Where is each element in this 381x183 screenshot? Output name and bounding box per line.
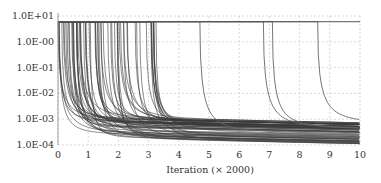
x-tick-label: 3 (139, 149, 159, 160)
x-tick-label: 8 (290, 149, 310, 160)
y-tick-label: 1.0E-02 (2, 88, 54, 98)
x-tick-label: 1 (78, 149, 98, 160)
x-tick-label: 6 (229, 149, 249, 160)
x-tick-label: 4 (169, 149, 189, 160)
y-tick-label: 1.0E-00 (2, 37, 54, 47)
y-tick-label: 1.0E-03 (2, 114, 54, 124)
y-tick-label: 1.0E-01 (2, 63, 54, 73)
x-tick-label: 9 (320, 149, 340, 160)
x-tick-label: 7 (259, 149, 279, 160)
y-tick-label: 1.0E-04 (2, 140, 54, 150)
x-axis-title: Iteration (× 2000) (140, 164, 280, 175)
x-tick-label: 0 (48, 149, 68, 160)
x-tick-label: 2 (108, 149, 128, 160)
y-tick-label: 1.0E+01 (2, 11, 54, 21)
x-tick-label: 5 (199, 149, 219, 160)
x-tick-label: 10 (350, 149, 370, 160)
